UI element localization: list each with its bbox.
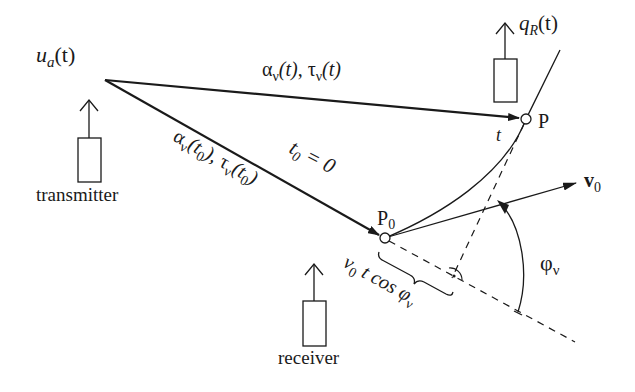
receiver-trajectory-curve — [385, 50, 560, 238]
point-P0-label: P0 — [377, 207, 395, 232]
diagram-canvas: transmitter receiver ua(t) qR(t) αν(t), … — [0, 0, 635, 392]
svg-text:φν: φν — [540, 250, 560, 278]
receive-signal-label: qR(t) — [519, 11, 558, 38]
svg-text:ua(t): ua(t) — [36, 42, 75, 70]
point-P-marker — [521, 114, 531, 124]
svg-text:v0 t cos φν: v0 t cos φν — [338, 250, 421, 312]
transmit-signal-label: ua(t) — [36, 42, 75, 70]
angle-arc — [500, 203, 524, 312]
svg-text:t0 = 0: t0 = 0 — [284, 135, 339, 181]
receiver-antenna-icon — [303, 264, 326, 346]
point-P0-marker — [380, 233, 390, 243]
path-params-t0-label: αν(t0), τν(t0) — [168, 124, 262, 192]
svg-text:v0: v0 — [584, 169, 601, 195]
path-line-to-P — [105, 80, 519, 118]
point-P-label: P — [538, 110, 549, 132]
moving-receiver-antenna-icon — [494, 23, 517, 102]
transmitter-antenna-icon — [78, 100, 101, 182]
velocity-label: v0 — [584, 169, 601, 195]
projection-length-label: v0 t cos φν — [338, 250, 421, 312]
t0-equals-zero-label: t0 = 0 — [284, 135, 339, 181]
path-params-t-label: αν(t), τν(t) — [262, 58, 341, 84]
transmitter-label: transmitter — [36, 184, 119, 205]
time-t-label: t — [496, 125, 502, 145]
svg-text:P0: P0 — [377, 207, 395, 232]
velocity-vector-arrow — [388, 183, 576, 237]
svg-text:αν(t0), τν(t0): αν(t0), τν(t0) — [168, 124, 262, 192]
svg-text:qR(t): qR(t) — [519, 11, 558, 38]
angle-label: φν — [540, 250, 560, 278]
svg-text:αν(t), τν(t): αν(t), τν(t) — [262, 58, 341, 84]
receiver-label: receiver — [278, 347, 340, 368]
